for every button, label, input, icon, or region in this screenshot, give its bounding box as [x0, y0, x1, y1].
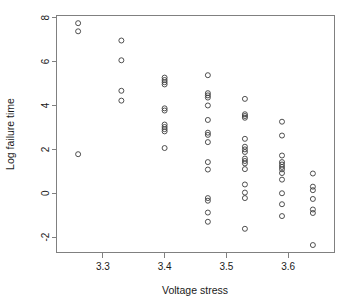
- data-point: [205, 219, 210, 224]
- data-point-layer: [76, 21, 316, 248]
- data-point: [310, 188, 315, 193]
- data-point: [119, 58, 124, 63]
- x-tick-label: 3.5: [219, 261, 233, 272]
- data-point: [242, 182, 247, 187]
- data-point: [279, 171, 284, 176]
- x-axis-ticks: 3.33.43.53.6: [96, 253, 296, 272]
- data-point: [119, 88, 124, 93]
- data-point: [119, 98, 124, 103]
- x-tick-label: 3.3: [96, 261, 110, 272]
- x-axis-title: Voltage stress: [162, 284, 228, 296]
- data-point: [205, 140, 210, 145]
- plot-frame: [57, 16, 335, 253]
- data-point: [205, 160, 210, 165]
- data-point: [205, 210, 210, 215]
- data-point: [242, 167, 247, 172]
- scatter-plot-figure: 3.33.43.53.6 -202468 Voltage stress Log …: [0, 0, 342, 303]
- data-point: [279, 214, 284, 219]
- y-tick-label: 8: [40, 14, 51, 20]
- data-point: [242, 196, 247, 201]
- data-point: [205, 167, 210, 172]
- y-axis-title: Log failure time: [4, 98, 16, 170]
- y-tick-label: 6: [40, 58, 51, 64]
- data-point: [242, 136, 247, 141]
- y-tick-label: -2: [40, 232, 51, 241]
- data-point: [310, 171, 315, 176]
- data-point: [279, 202, 284, 207]
- data-point: [76, 29, 81, 34]
- data-point: [76, 152, 81, 157]
- data-point: [279, 133, 284, 138]
- y-tick-label: 4: [40, 102, 51, 108]
- data-point: [205, 117, 210, 122]
- data-point: [279, 177, 284, 182]
- data-point: [279, 153, 284, 158]
- data-point: [119, 38, 124, 43]
- y-axis-ticks: -202468: [40, 14, 57, 241]
- data-point: [242, 190, 247, 195]
- data-point: [242, 226, 247, 231]
- data-point: [162, 146, 167, 151]
- y-tick-label: 0: [40, 190, 51, 196]
- data-point: [310, 243, 315, 248]
- data-point: [279, 191, 284, 196]
- data-point: [242, 96, 247, 101]
- data-point: [205, 73, 210, 78]
- x-tick-label: 3.4: [158, 261, 172, 272]
- data-point: [205, 103, 210, 108]
- data-point: [279, 119, 284, 124]
- data-point: [310, 211, 315, 216]
- data-point: [310, 196, 315, 201]
- x-tick-label: 3.6: [281, 261, 295, 272]
- chart-canvas: 3.33.43.53.6 -202468 Voltage stress Log …: [0, 0, 342, 303]
- y-tick-label: 2: [40, 146, 51, 152]
- data-point: [76, 21, 81, 26]
